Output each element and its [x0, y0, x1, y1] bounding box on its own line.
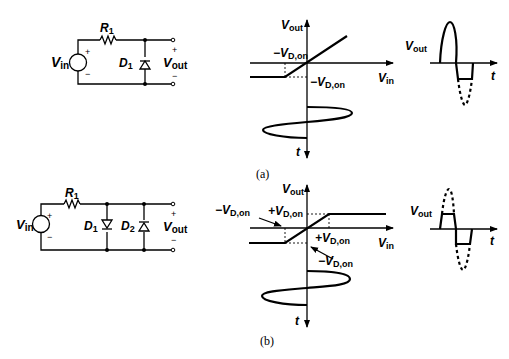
vout-minus: − [172, 71, 177, 81]
d2-label: D2 [121, 219, 135, 234]
vout-label: Vout [163, 219, 188, 235]
vout-plus: + [171, 209, 176, 219]
caption-b: (b) [260, 334, 274, 348]
output-waveform-b: Vout t [410, 189, 497, 270]
vin-axis-label: Vin [378, 236, 394, 251]
clamp-level-label: −VD,on [310, 75, 345, 90]
output-wave-original-top [442, 189, 454, 214]
vout-plus: + [172, 45, 177, 55]
output-wave-original [458, 79, 472, 105]
node-dot [142, 248, 146, 252]
output-wave-original-bottom [456, 244, 470, 270]
vout-axis-label: Vout [282, 182, 304, 197]
neg-breakpoint-label: −VD,on [215, 203, 250, 218]
circuit-a: + − Vin R1 D1 + − [51, 21, 188, 86]
resistor-icon [64, 200, 80, 208]
caption-a: (a) [256, 167, 269, 181]
pos-breakpoint-label: +VD,on [315, 231, 350, 246]
transfer-plot-b: −VD,on +VD,on +VD,on −VD,on Vout Vin t [215, 182, 394, 328]
output-terminal [171, 202, 175, 206]
panel-b: + − Vin R1 D1 [16, 182, 497, 348]
node-dot [142, 202, 146, 206]
node-dot [143, 82, 147, 86]
input-sine-wave [262, 271, 350, 305]
diode-d2-icon [139, 222, 149, 231]
output-waveform-a: Vout t [405, 22, 497, 105]
t-axis-label: t [295, 314, 300, 328]
source-plus: + [85, 47, 90, 57]
node-dot [143, 38, 147, 42]
breakpoint-label: −VD,on [273, 46, 308, 61]
vout-minus: − [171, 235, 176, 245]
circuit-b: + − Vin R1 D1 [16, 186, 188, 252]
t-label: t [491, 69, 496, 83]
source-minus: − [47, 232, 52, 242]
resistor-icon [100, 36, 116, 44]
annotation-arrow [259, 218, 281, 226]
vout-waveform-label: Vout [410, 204, 432, 219]
t-label: t [490, 234, 495, 248]
vout-label: Vout [163, 55, 188, 71]
r1-label: R1 [100, 21, 114, 36]
vin-axis-label: Vin [378, 71, 394, 86]
node-dot [105, 248, 109, 252]
pos-clamp-label: +VD,on [268, 204, 303, 219]
output-terminal [171, 38, 175, 42]
transfer-plot-a: −VD,on −VD,on Vout Vin t [250, 18, 394, 159]
vout-waveform-label: Vout [405, 39, 427, 54]
voltage-source-icon [70, 54, 87, 71]
panel-a: + − Vin R1 D1 + − [51, 18, 497, 181]
source-plus: + [47, 211, 52, 221]
vin-label: Vin [16, 217, 34, 233]
output-wave-clipped [440, 22, 473, 79]
d1-label: D1 [84, 219, 98, 234]
diode-d1-icon [140, 61, 150, 69]
vin-label: Vin [51, 54, 69, 71]
d1-label: D1 [119, 56, 133, 71]
vout-axis-label: Vout [281, 18, 303, 33]
output-terminal [171, 248, 175, 252]
source-minus: − [85, 69, 90, 79]
output-terminal [171, 82, 175, 86]
diode-d1-icon [102, 220, 112, 229]
t-axis-label: t [296, 145, 301, 159]
neg-clamp-label: −VD,on [318, 254, 353, 269]
diode-clipper-figure: + − Vin R1 D1 + − [0, 0, 509, 359]
r1-label: R1 [65, 186, 79, 201]
node-dot [105, 202, 109, 206]
